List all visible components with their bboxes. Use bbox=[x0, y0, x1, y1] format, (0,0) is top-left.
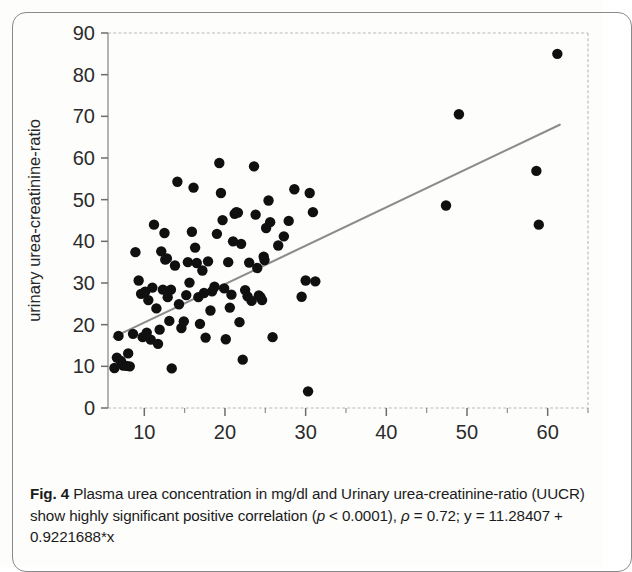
data-point bbox=[273, 240, 283, 250]
data-point bbox=[252, 263, 262, 273]
data-point bbox=[308, 207, 318, 217]
data-point bbox=[143, 295, 153, 305]
data-point bbox=[113, 331, 123, 341]
data-point bbox=[159, 228, 169, 238]
y-tick-label: 10 bbox=[73, 355, 95, 377]
data-point bbox=[187, 227, 197, 237]
data-point bbox=[149, 219, 159, 229]
y-tick-label: 80 bbox=[73, 64, 95, 86]
data-point bbox=[265, 217, 275, 227]
data-point bbox=[214, 158, 224, 168]
data-point bbox=[216, 188, 226, 198]
data-point bbox=[183, 257, 193, 267]
data-point bbox=[181, 290, 191, 300]
data-point bbox=[190, 242, 200, 252]
data-point bbox=[296, 292, 306, 302]
data-point bbox=[257, 295, 267, 305]
y-tick-label: 60 bbox=[73, 147, 95, 169]
data-point bbox=[200, 332, 210, 342]
data-point bbox=[259, 255, 269, 265]
y-axis-title: urinary urea-creatinine-ratio bbox=[25, 119, 43, 322]
data-point bbox=[205, 305, 215, 315]
data-point bbox=[534, 219, 544, 229]
data-point bbox=[203, 256, 213, 266]
data-point bbox=[151, 303, 161, 313]
caption-rho-symbol: ρ bbox=[401, 507, 410, 524]
scatter-plot: 0102030405060708090102030405060plasma ur… bbox=[0, 0, 603, 460]
data-point bbox=[130, 247, 140, 257]
data-point bbox=[197, 265, 207, 275]
data-points-layer bbox=[109, 49, 562, 397]
data-point bbox=[123, 348, 133, 358]
data-point bbox=[221, 334, 231, 344]
y-tick-label: 70 bbox=[73, 105, 95, 127]
data-point bbox=[236, 239, 246, 249]
data-point bbox=[226, 289, 236, 299]
data-point bbox=[167, 363, 177, 373]
x-tick-label: 50 bbox=[456, 421, 478, 443]
data-point bbox=[300, 275, 310, 285]
y-tick-label: 20 bbox=[73, 314, 95, 336]
data-point bbox=[289, 184, 299, 194]
y-tick-label: 0 bbox=[84, 397, 95, 419]
x-tick-label: 20 bbox=[214, 421, 236, 443]
data-point bbox=[552, 49, 562, 59]
data-point bbox=[454, 109, 464, 119]
data-point bbox=[166, 284, 176, 294]
data-point bbox=[188, 182, 198, 192]
y-tick-label: 30 bbox=[73, 272, 95, 294]
data-point bbox=[209, 282, 219, 292]
data-point bbox=[195, 319, 205, 329]
data-point bbox=[170, 260, 180, 270]
data-point bbox=[263, 195, 273, 205]
axes-layer bbox=[101, 33, 588, 416]
data-point bbox=[279, 231, 289, 241]
data-point bbox=[310, 276, 320, 286]
data-point bbox=[267, 332, 277, 342]
x-axis-title: plasma urea concentrations (mg/dl) bbox=[219, 459, 478, 460]
data-point bbox=[133, 275, 143, 285]
data-point bbox=[217, 215, 227, 225]
data-point bbox=[147, 282, 157, 292]
data-point bbox=[304, 188, 314, 198]
data-point bbox=[233, 207, 243, 217]
x-tick-label: 30 bbox=[295, 421, 317, 443]
caption-p-symbol: p bbox=[317, 507, 325, 524]
caption-text-2: < 0.0001), bbox=[325, 507, 401, 524]
data-point bbox=[162, 253, 172, 263]
data-point bbox=[238, 354, 248, 364]
data-point bbox=[303, 386, 313, 396]
data-point bbox=[184, 277, 194, 287]
figure-label: Fig. 4 bbox=[30, 485, 69, 502]
data-point bbox=[172, 177, 182, 187]
y-tick-label: 40 bbox=[73, 230, 95, 252]
x-tick-label: 10 bbox=[133, 421, 155, 443]
data-point bbox=[250, 209, 260, 219]
data-point bbox=[128, 329, 138, 339]
data-point bbox=[441, 200, 451, 210]
data-point bbox=[174, 299, 184, 309]
x-tick-label: 60 bbox=[537, 421, 559, 443]
figure-caption: Fig. 4 Plasma urea concentration in mg/d… bbox=[30, 483, 586, 548]
x-tick-label: 40 bbox=[375, 421, 397, 443]
data-point bbox=[225, 302, 235, 312]
data-point bbox=[179, 316, 189, 326]
y-tick-label: 50 bbox=[73, 189, 95, 211]
data-point bbox=[125, 361, 135, 371]
data-point bbox=[212, 229, 222, 239]
data-point bbox=[153, 339, 163, 349]
data-point bbox=[154, 324, 164, 334]
y-tick-label: 90 bbox=[73, 22, 95, 44]
data-point bbox=[284, 216, 294, 226]
data-point bbox=[223, 257, 233, 267]
data-point bbox=[234, 317, 244, 327]
data-point bbox=[249, 161, 259, 171]
data-point bbox=[531, 166, 541, 176]
data-point bbox=[164, 316, 174, 326]
